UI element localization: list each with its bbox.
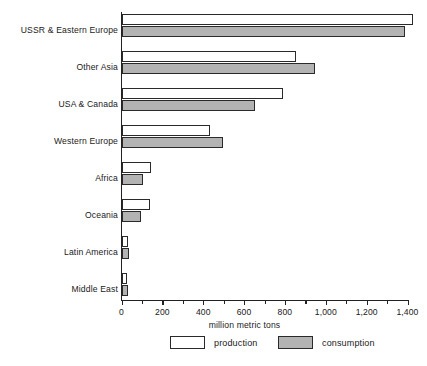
bar-consumption-africa [122,174,143,185]
legend-label-consumption: consumption [322,338,375,348]
x-minor-tick-1100 [346,301,347,304]
legend-swatch-production-icon [170,336,205,349]
x-tick-1200 [367,301,368,305]
category-label-latin-america: Latin America [64,247,118,257]
bar-production-other-asia [122,51,297,62]
x-minor-tick-1300 [387,301,388,304]
bar-consumption-latin-america [122,248,129,259]
category-label-africa: Africa [95,173,118,183]
bar-consumption-oceania [122,211,141,222]
chart-legend: production consumption [0,336,427,356]
x-tick-0 [122,301,123,305]
category-label-oceania: Oceania [85,210,118,220]
x-tick-label-1400: 1,400 [396,307,418,317]
x-minor-tick-300 [183,301,184,304]
bar-production-usa-canada [122,88,283,99]
category-label-ussr-eastern-europe: USSR & Eastern Europe [21,25,118,35]
category-label-western-europe: Western Europe [54,136,118,146]
x-tick-200 [162,301,163,305]
category-label-other-asia: Other Asia [76,62,118,72]
x-tick-600 [244,301,245,305]
x-minor-tick-100 [142,301,143,304]
x-minor-tick-500 [224,301,225,304]
category-label-usa-canada: USA & Canada [58,99,118,109]
x-minor-tick-900 [305,301,306,304]
bar-consumption-other-asia [122,63,315,74]
bar-chart-plot-area: USSR & Eastern Europe Other Asia USA & C… [0,0,427,366]
bar-consumption-middle-east [122,285,128,296]
x-tick-1400 [408,301,409,305]
x-tick-label-1200: 1,200 [356,307,378,317]
x-tick-1000 [326,301,327,305]
category-label-middle-east: Middle East [71,284,118,294]
legend-label-production: production [214,338,258,348]
x-tick-400 [203,301,204,305]
legend-item-production: production [170,336,258,349]
x-tick-label-1000: 1,000 [315,307,337,317]
x-axis-title-text: million metric tons [209,320,281,330]
x-tick-label-400: 400 [196,307,211,317]
x-tick-label-800: 800 [278,307,293,317]
y-axis-line [121,12,122,301]
x-tick-800 [285,301,286,305]
chart-root: USSR & Eastern Europe Other Asia USA & C… [0,0,427,366]
bar-production-africa [122,162,152,173]
bar-production-western-europe [122,125,211,136]
bar-consumption-ussr-eastern-europe [122,26,406,37]
legend-swatch-consumption-icon [278,336,313,349]
bar-consumption-western-europe [122,137,223,148]
x-tick-label-0: 0 [119,307,124,317]
x-tick-label-200: 200 [155,307,170,317]
x-minor-tick-700 [265,301,266,304]
bar-production-ussr-eastern-europe [122,14,413,25]
bar-production-latin-america [122,236,128,247]
x-axis-title: million metric tons [0,320,427,330]
bar-consumption-usa-canada [122,100,256,111]
x-tick-label-600: 600 [237,307,252,317]
bar-production-oceania [122,199,151,210]
legend-item-consumption: consumption [278,336,375,349]
